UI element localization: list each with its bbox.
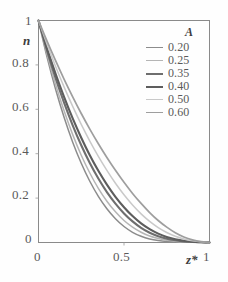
x-tick-label-0.5: 0.5 [113,249,130,265]
chart-figure: 1 0.8 0.6 0.4 0.2 0 0 0.5 1 n z* A 0.200… [0,0,228,282]
y-axis-title: n [23,33,30,49]
y-tick-label-0.8: 0.8 [12,55,29,71]
legend-label-0.60: 0.60 [168,106,189,119]
y-tick-label-0: 0 [25,231,32,247]
legend-swatch-icon-0.50 [146,99,163,100]
legend-item-0.60: 0.60 [146,106,218,119]
legend-swatch-icon-0.40 [146,86,163,88]
y-tick-label-0.6: 0.6 [12,99,29,115]
legend-swatch-icon-0.35 [146,73,163,75]
legend-swatch-icon-0.20 [146,47,163,48]
y-tick-label-0.2: 0.2 [12,187,29,203]
legend-swatch-icon-0.60 [146,112,163,113]
legend: A 0.200.250.350.400.500.60 [146,26,218,119]
legend-title: A [146,26,218,38]
y-tick-label-1: 1 [25,13,32,29]
legend-swatch-icon-0.25 [146,60,163,61]
y-tick-label-0.4: 0.4 [12,143,29,159]
x-tick-label-0: 0 [34,249,41,265]
x-tick-label-1: 1 [203,249,210,265]
x-axis-title: z* [186,252,198,268]
legend-rows: 0.200.250.350.400.500.60 [146,41,218,119]
